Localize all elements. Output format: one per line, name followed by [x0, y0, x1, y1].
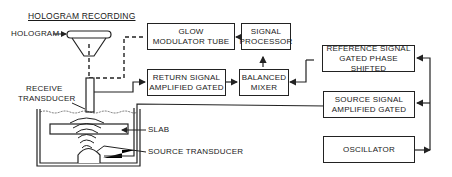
diagram-title: HOLOGRAM RECORDING — [28, 11, 136, 21]
hologram-label: HOLOGRAM — [11, 29, 59, 39]
block-label: AMPLIFIED GATED — [149, 83, 223, 93]
reference-signal-block: REFERENCE SIGNAL GATED PHASE SHIFTED — [322, 45, 415, 72]
signal-processor-block: SIGNAL PROCESSOR — [241, 23, 291, 50]
block-label: OSCILLATOR — [343, 145, 395, 155]
block-label: MODULATOR TUBE — [153, 37, 230, 47]
glow-modulator-tube-block: GLOW MODULATOR TUBE — [147, 23, 235, 50]
block-label: REFERENCE SIGNAL — [326, 44, 410, 54]
receive-transducer-label-1: RECEIVE — [26, 84, 63, 94]
block-label: BALANCED — [242, 73, 287, 83]
source-signal-block: SOURCE SIGNAL AMPLIFIED GATED — [323, 91, 415, 118]
return-signal-block: RETURN SIGNAL AMPLIFIED GATED — [147, 69, 226, 96]
oscillator-block: OSCILLATOR — [323, 136, 415, 163]
block-label: SOURCE SIGNAL — [335, 95, 403, 105]
block-label: RETURN SIGNAL — [153, 73, 221, 83]
source-transducer-label: SOURCE TRANSDUCER — [148, 147, 243, 157]
block-label: MIXER — [251, 83, 277, 93]
block-label: GLOW — [178, 27, 203, 37]
receive-transducer-label-2: TRANSDUCER — [18, 94, 76, 104]
block-label: AMPLIFIED GATED — [332, 105, 406, 115]
slab-label: SLAB — [148, 125, 169, 135]
block-label: SIGNAL — [251, 27, 282, 37]
block-label: GATED PHASE SHIFTED — [323, 54, 414, 74]
balanced-mixer-block: BALANCED MIXER — [239, 69, 289, 96]
block-label: PROCESSOR — [240, 37, 293, 47]
